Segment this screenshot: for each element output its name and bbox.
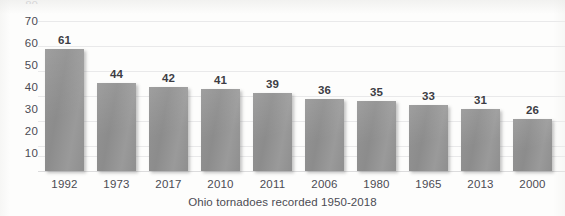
bar-group-8: 31 2013 xyxy=(461,0,500,216)
bars-group: 61 1992 44 1973 42 2017 41 2010 39 xyxy=(0,0,565,216)
bar-group-4: 39 2011 xyxy=(253,0,292,216)
bar-group-5: 36 2006 xyxy=(305,0,344,216)
bar-value-2011: 39 xyxy=(253,79,292,91)
x-axis-label-2006: 2006 xyxy=(298,179,351,191)
bar-2011[interactable] xyxy=(253,93,292,171)
chart-page: 80 70 60 50 40 30 20 10 61 1992 44 1973 … xyxy=(0,0,565,216)
x-axis-label-2017: 2017 xyxy=(142,179,195,191)
bar-1973[interactable] xyxy=(97,83,136,171)
bar-2010[interactable] xyxy=(201,89,240,171)
bar-1992[interactable] xyxy=(45,49,84,171)
bar-value-2006: 36 xyxy=(305,85,344,97)
bar-value-2013: 31 xyxy=(461,95,500,107)
bar-value-1965: 33 xyxy=(409,91,448,103)
bar-group-9: 26 2000 xyxy=(513,0,552,216)
bar-1980[interactable] xyxy=(357,101,396,171)
bar-2013[interactable] xyxy=(461,109,500,171)
bar-value-2000: 26 xyxy=(513,105,552,117)
bar-group-1: 44 1973 xyxy=(97,0,136,216)
x-axis-label-1980: 1980 xyxy=(350,179,403,191)
bar-group-2: 42 2017 xyxy=(149,0,188,216)
bar-value-1980: 35 xyxy=(357,87,396,99)
bar-2017[interactable] xyxy=(149,87,188,171)
bar-2006[interactable] xyxy=(305,99,344,171)
x-axis-label-2013: 2013 xyxy=(454,179,507,191)
bar-group-3: 41 2010 xyxy=(201,0,240,216)
bar-value-1973: 44 xyxy=(97,69,136,81)
x-axis-label-2010: 2010 xyxy=(194,179,247,191)
bar-group-7: 33 1965 xyxy=(409,0,448,216)
bar-1965[interactable] xyxy=(409,105,448,171)
x-axis-label-2000: 2000 xyxy=(506,179,559,191)
chart-caption: Ohio tornadoes recorded 1950-2018 xyxy=(0,197,565,209)
bar-value-2010: 41 xyxy=(201,75,240,87)
bar-2000[interactable] xyxy=(513,119,552,171)
bar-group-0: 61 1992 xyxy=(45,0,84,216)
x-axis-label-1973: 1973 xyxy=(90,179,143,191)
bar-group-6: 35 1980 xyxy=(357,0,396,216)
bar-value-2017: 42 xyxy=(149,73,188,85)
x-axis-label-2011: 2011 xyxy=(246,179,299,191)
bar-value-1992: 61 xyxy=(45,35,84,47)
plot-area: 80 70 60 50 40 30 20 10 61 1992 44 1973 … xyxy=(0,0,565,216)
x-axis-label-1965: 1965 xyxy=(402,179,455,191)
x-axis-label-1992: 1992 xyxy=(38,179,91,191)
